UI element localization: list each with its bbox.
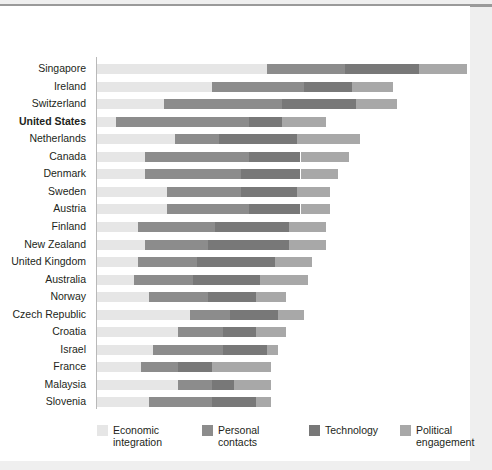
bar-segment-personal-contacts [178,380,211,390]
legend-swatch-icon [202,425,213,436]
bar-segment-personal-contacts [145,152,249,162]
bar-segment-political-engagement [282,117,326,127]
stacked-bar [97,257,312,267]
bar-segment-political-engagement [260,275,308,285]
stacked-bar [97,64,467,74]
stacked-bar [97,327,286,337]
chart-row: Austria [0,203,470,221]
chart-row: Netherlands [0,133,470,151]
chart-row: Sweden [0,186,470,204]
stacked-bar-chart: SingaporeIrelandSwitzerlandUnited States… [0,6,470,461]
bar-segment-personal-contacts [178,327,222,337]
bar-segment-technology [219,134,297,144]
chart-row: Malaysia [0,379,470,397]
bar-segment-political-engagement [356,99,397,109]
chart-row: Czech Republic [0,309,470,327]
stacked-bar [97,397,271,407]
row-label-czech-republic: Czech Republic [0,309,86,320]
row-label-malaysia: Malaysia [0,379,86,390]
bar-segment-economic-integration [97,222,138,232]
bar-segment-political-engagement [256,397,271,407]
chart-row: Switzerland [0,98,470,116]
stacked-bar [97,134,360,144]
stacked-bar [97,204,330,214]
bar-segment-technology [241,169,300,179]
bar-segment-political-engagement [301,152,349,162]
stacked-bar [97,169,338,179]
row-label-slovenia: Slovenia [0,396,86,407]
legend-item-political-engagement[interactable]: Political engagement [400,424,474,448]
row-label-united-kingdom: United Kingdom [0,256,86,267]
bar-segment-technology [345,64,419,74]
bar-segment-economic-integration [97,152,145,162]
stacked-bar [97,362,271,372]
bar-segment-personal-contacts [167,187,241,197]
stacked-bar [97,240,326,250]
row-label-denmark: Denmark [0,168,86,179]
bar-segment-economic-integration [97,310,190,320]
bar-segment-technology [282,99,356,109]
chart-row: Canada [0,151,470,169]
bar-segment-personal-contacts [138,222,216,232]
stacked-bar [97,292,286,302]
row-label-france: France [0,361,86,372]
bar-segment-personal-contacts [138,257,197,267]
legend-swatch-icon [309,425,320,436]
stacked-bar [97,345,278,355]
legend-item-economic-integration[interactable]: Economic integration [97,424,162,448]
chart-row: Finland [0,221,470,239]
stacked-bar [97,187,330,197]
bar-segment-personal-contacts [153,345,223,355]
row-label-sweden: Sweden [0,186,86,197]
bar-segment-political-engagement [419,64,467,74]
bar-segment-political-engagement [256,292,286,302]
bar-segment-technology [223,327,256,337]
stacked-bar [97,99,397,109]
legend-item-technology[interactable]: Technology [309,424,378,436]
bar-segment-personal-contacts [141,362,178,372]
bar-segment-personal-contacts [149,292,208,302]
chart-row: Denmark [0,168,470,186]
bar-segment-economic-integration [97,397,149,407]
bar-segment-economic-integration [97,169,145,179]
legend-label: Technology [325,424,378,436]
chart-row: Croatia [0,326,470,344]
legend-label: Personal contacts [218,424,259,448]
bar-segment-technology [241,187,297,197]
legend-label: Economic integration [113,424,162,448]
chart-row: Singapore [0,63,470,81]
bar-segment-technology [223,345,267,355]
legend-label: Political engagement [416,424,474,448]
chart-row: New Zealand [0,239,470,257]
bar-segment-economic-integration [97,64,267,74]
bar-segment-personal-contacts [212,82,305,92]
bar-segment-personal-contacts [145,240,208,250]
row-label-ireland: Ireland [0,81,86,92]
stacked-bar [97,152,349,162]
bar-segment-economic-integration [97,345,153,355]
bar-segment-economic-integration [97,117,116,127]
bar-segment-technology [212,380,234,390]
bar-segment-economic-integration [97,82,212,92]
stacked-bar [97,310,304,320]
chart-row: Slovenia [0,396,470,414]
legend-swatch-icon [97,425,108,436]
chart-row: Ireland [0,81,470,99]
bar-segment-political-engagement [256,327,286,337]
bar-segment-political-engagement [297,187,330,197]
chart-row: Australia [0,274,470,292]
bar-segment-economic-integration [97,187,167,197]
bar-segment-economic-integration [97,99,164,109]
bar-segment-personal-contacts [116,117,249,127]
stacked-bar [97,275,308,285]
bar-segment-personal-contacts [190,310,231,320]
legend-item-personal-contacts[interactable]: Personal contacts [202,424,259,448]
bar-segment-personal-contacts [267,64,345,74]
row-label-norway: Norway [0,291,86,302]
bar-segment-personal-contacts [134,275,193,285]
bar-segment-technology [178,362,211,372]
bar-segment-political-engagement [275,257,312,267]
bar-segment-personal-contacts [164,99,282,109]
bar-segment-political-engagement [278,310,304,320]
bar-segment-technology [249,117,282,127]
